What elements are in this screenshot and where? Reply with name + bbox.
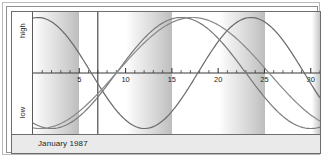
caption-strip: January 1987 bbox=[11, 135, 321, 154]
y-axis-label-gutter: high low bbox=[12, 12, 33, 134]
y-axis-high-label: high bbox=[18, 20, 27, 41]
plot-region[interactable]: 51015202530 bbox=[33, 12, 320, 134]
x-axis-tick-label: 5 bbox=[77, 75, 81, 84]
biorhythm-curves: 51015202530 bbox=[33, 12, 320, 134]
window-frame-outer: high low 51015202530 January 1987 bbox=[2, 2, 320, 155]
biorhythm-window: high low 51015202530 January 1987 bbox=[0, 0, 324, 158]
y-axis-low-label: low bbox=[18, 102, 27, 123]
window-frame-inner: high low 51015202530 January 1987 bbox=[6, 6, 318, 153]
x-axis-tick-label: 10 bbox=[121, 75, 129, 84]
x-axis-tick-label: 25 bbox=[260, 75, 268, 84]
x-axis-tick-label: 20 bbox=[214, 75, 222, 84]
chart-area[interactable]: high low 51015202530 bbox=[11, 11, 321, 135]
month-caption: January 1987 bbox=[38, 139, 88, 148]
x-axis-tick-label: 15 bbox=[168, 75, 176, 84]
